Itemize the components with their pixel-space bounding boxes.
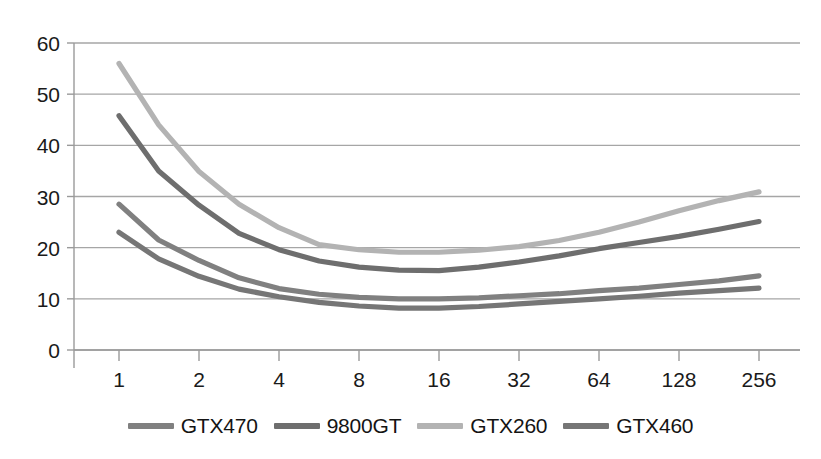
y-axis-labels: 0102030405060 (37, 32, 60, 362)
legend-color-swatch (417, 423, 463, 429)
series-line-gtx260 (119, 63, 759, 252)
legend-color-swatch (128, 423, 174, 429)
legend-item[interactable]: GTX260 (417, 414, 547, 438)
legend-label: GTX470 (181, 414, 258, 438)
y-axis-tick-label: 60 (37, 32, 60, 55)
y-axis-tick-label: 50 (37, 83, 60, 106)
y-axis-tick-label: 10 (37, 288, 60, 311)
x-axis-tick-label: 64 (587, 368, 611, 391)
legend-color-swatch (563, 423, 609, 429)
gridlines (74, 43, 800, 350)
legend-color-swatch (274, 423, 320, 429)
x-axis-tick-label: 4 (273, 368, 285, 391)
x-axis-tick-label: 128 (661, 368, 696, 391)
x-axis-tick-label: 32 (507, 368, 530, 391)
x-axis-tick-label: 256 (741, 368, 776, 391)
legend-label: GTX260 (470, 414, 547, 438)
legend-item[interactable]: 9800GT (274, 414, 402, 438)
x-axis-tick-label: 8 (353, 368, 365, 391)
legend-item[interactable]: GTX470 (128, 414, 258, 438)
chart-canvas: 0102030405060 1248163264128256 (0, 0, 821, 459)
chart-legend: GTX4709800GTGTX260GTX460 (0, 406, 821, 446)
y-axis-tick-label: 0 (48, 339, 60, 362)
line-chart: 0102030405060 1248163264128256 GTX470980… (0, 0, 821, 459)
x-axis-ticks (74, 350, 800, 361)
x-axis-tick-label: 2 (193, 368, 205, 391)
x-axis-tick-label: 16 (427, 368, 450, 391)
legend-item[interactable]: GTX460 (563, 414, 693, 438)
y-axis-tick-label: 20 (37, 237, 60, 260)
y-axis (67, 43, 74, 368)
x-axis-labels: 1248163264128256 (113, 368, 776, 391)
series-lines (119, 63, 759, 308)
legend-label: GTX460 (616, 414, 693, 438)
y-axis-tick-label: 40 (37, 134, 60, 157)
y-axis-tick-label: 30 (37, 186, 60, 209)
legend-label: 9800GT (327, 414, 402, 438)
x-axis-tick-label: 1 (113, 368, 125, 391)
